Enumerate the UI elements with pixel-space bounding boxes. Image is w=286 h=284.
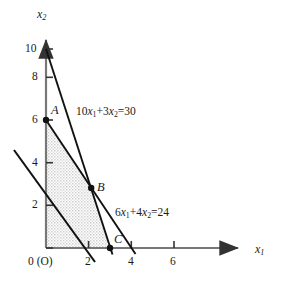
vertex-point-C bbox=[107, 245, 113, 251]
equation-label-constraint-1: 10x1+3x2=30 bbox=[76, 106, 136, 119]
x-axis-label: x1 bbox=[255, 243, 264, 257]
x-tick-label-2: 2 bbox=[85, 256, 91, 268]
y-tick-label-6: 6 bbox=[32, 114, 38, 126]
y-tick-label-10: 10 bbox=[25, 43, 37, 55]
y-axis-label: x2 bbox=[37, 8, 46, 22]
vertex-label-A: A bbox=[51, 104, 59, 117]
y-tick-label-4: 4 bbox=[32, 157, 38, 169]
linear-programming-figure: x2 x1 10 8 6 4 2 0 (O) 2 4 6 A B C 10x1+… bbox=[0, 0, 286, 284]
vertex-point-B bbox=[88, 185, 94, 191]
origin-label: 0 (O) bbox=[28, 256, 53, 268]
vertex-label-C: C bbox=[114, 233, 122, 246]
y-tick-label-8: 8 bbox=[32, 71, 38, 83]
x-tick-label-4: 4 bbox=[128, 256, 134, 268]
vertex-label-B: B bbox=[97, 181, 105, 194]
equation-label-constraint-2: 6x1+4x2=24 bbox=[115, 207, 169, 220]
plot-canvas bbox=[0, 0, 286, 284]
y-tick-label-2: 2 bbox=[32, 199, 38, 211]
x-tick-label-6: 6 bbox=[170, 256, 176, 268]
vertex-point-A bbox=[43, 117, 49, 123]
